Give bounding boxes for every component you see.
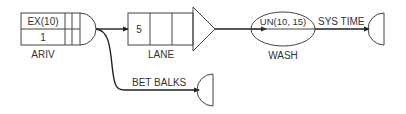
bet-balks-label: BET BALKS bbox=[132, 77, 187, 88]
network-diagram: EX(10) 1 ARIV BET BALKS 5 LANE UN(10, 15… bbox=[0, 0, 406, 114]
sys-time-sink bbox=[368, 13, 384, 45]
sys-time-label: SYS TIME bbox=[318, 16, 365, 27]
lane-label: LANE bbox=[148, 49, 174, 60]
bet-balks-sink bbox=[197, 74, 213, 106]
wash-node: UN(10, 15) WASH bbox=[251, 12, 315, 61]
lane-cell-text: 5 bbox=[136, 24, 142, 35]
ariv-label: ARIV bbox=[31, 49, 55, 60]
ariv-bottom-text: 1 bbox=[40, 32, 46, 43]
lane-triangle bbox=[193, 7, 215, 51]
wash-label: WASH bbox=[268, 50, 298, 61]
ariv-semicircle bbox=[80, 13, 96, 45]
ariv-node: EX(10) 1 ARIV bbox=[21, 13, 96, 60]
ariv-top-text: EX(10) bbox=[27, 16, 58, 27]
wash-text: UN(10, 15) bbox=[260, 16, 306, 27]
lane-node: 5 LANE bbox=[128, 7, 215, 60]
